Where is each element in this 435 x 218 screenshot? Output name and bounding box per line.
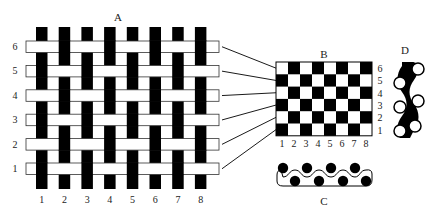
grid-cell-filled <box>324 74 336 86</box>
grid-col-label: 7 <box>352 138 357 149</box>
panel-c-weft-cross-section <box>277 163 372 186</box>
grid-cell-filled <box>348 99 360 111</box>
grid-cell-filled <box>312 87 324 99</box>
warp-float <box>195 40 207 53</box>
weft-section <box>409 120 421 132</box>
grid-cell-filled <box>348 74 360 86</box>
warp-float <box>81 65 93 78</box>
warp-label: 7 <box>175 194 180 205</box>
warp-label: 4 <box>107 194 112 205</box>
weft-yarn <box>26 114 219 126</box>
weft-section <box>412 63 424 75</box>
connector-line <box>222 71 276 80</box>
warp-section-bottom <box>361 176 371 186</box>
grid-cell-filled <box>276 99 288 111</box>
panel-a-label: A <box>114 11 122 23</box>
grid-row-label: 2 <box>378 112 383 123</box>
weft-label: 6 <box>13 41 18 52</box>
warp-section-top <box>302 163 312 173</box>
grid-cell-filled <box>288 111 300 123</box>
grid-row-label: 5 <box>378 75 383 86</box>
grid-col-label: 8 <box>364 138 369 149</box>
warp-label: 3 <box>85 194 90 205</box>
grid-cell-filled <box>312 111 324 123</box>
warp-float <box>104 138 116 151</box>
warp-label: 2 <box>62 194 67 205</box>
warp-float <box>195 138 207 151</box>
warp-float <box>81 162 93 175</box>
weft-yarn <box>26 163 219 175</box>
connector-line <box>222 105 276 120</box>
warp-float <box>172 162 184 175</box>
warp-float <box>150 40 162 53</box>
weft-yarn <box>26 90 219 102</box>
weft-section <box>412 95 424 107</box>
grid-row-label: 6 <box>378 63 383 74</box>
warp-float <box>36 114 48 127</box>
warp-float <box>172 114 184 127</box>
warp-float <box>81 114 93 127</box>
grid-row-label: 4 <box>378 88 383 99</box>
weft-label: 1 <box>13 163 18 174</box>
grid-cell-filled <box>300 74 312 86</box>
warp-label: 1 <box>39 194 44 205</box>
grid-cell-filled <box>276 124 288 136</box>
grid-cell-filled <box>360 87 372 99</box>
warp-section-top <box>350 163 360 173</box>
warp-float <box>127 162 139 175</box>
grid-col-label: 2 <box>292 138 297 149</box>
grid-cell-filled <box>288 87 300 99</box>
weft-section <box>394 125 406 137</box>
weft-label: 5 <box>13 65 18 76</box>
warp-section-top <box>278 163 288 173</box>
weft-yarn <box>26 41 219 53</box>
panel-a-plain-weave: 65432112345678 <box>13 27 220 205</box>
warp-section-top <box>326 163 336 173</box>
weft-label: 4 <box>13 90 18 101</box>
warp-float <box>195 89 207 102</box>
panel-b-checkerboard: 65432112345678 <box>276 62 383 149</box>
grid-col-label: 1 <box>280 138 285 149</box>
warp-float <box>150 138 162 151</box>
weft-yarn <box>26 139 219 151</box>
connector-lines <box>222 47 276 169</box>
grid-cell-filled <box>336 87 348 99</box>
warp-float <box>104 40 116 53</box>
weft-section <box>394 101 406 113</box>
connector-line <box>222 93 276 96</box>
grid-cell-filled <box>360 111 372 123</box>
warp-label: 6 <box>153 194 158 205</box>
grid-cell-filled <box>324 99 336 111</box>
grid-cell-filled <box>312 62 324 74</box>
grid-cell-filled <box>300 99 312 111</box>
warp-section-bottom <box>290 176 300 186</box>
grid-row-label: 1 <box>378 125 383 136</box>
warp-float <box>36 65 48 78</box>
panel-c-label: C <box>320 195 327 207</box>
warp-label: 8 <box>198 194 203 205</box>
grid-col-label: 3 <box>304 138 309 149</box>
grid-col-label: 5 <box>328 138 333 149</box>
grid-cell-filled <box>288 62 300 74</box>
grid-col-label: 4 <box>316 138 321 149</box>
connector-line <box>222 47 276 68</box>
grid-cell-filled <box>360 62 372 74</box>
weft-section <box>394 77 406 89</box>
panel-d-warp-cross-section <box>394 62 424 138</box>
weft-yarn <box>26 65 219 77</box>
grid-cell-filled <box>348 124 360 136</box>
weft-label: 2 <box>13 139 18 150</box>
warp-float <box>104 89 116 102</box>
warp-float <box>36 162 48 175</box>
grid-cell-filled <box>324 124 336 136</box>
warp-float <box>59 138 70 151</box>
warp-float <box>150 89 162 102</box>
panel-d-label: D <box>401 44 409 56</box>
grid-col-label: 6 <box>340 138 345 149</box>
warp-label: 5 <box>130 194 135 205</box>
warp-float <box>127 114 139 127</box>
weft-label: 3 <box>13 114 18 125</box>
connector-line <box>222 117 276 144</box>
weave-diagram: 65432112345678 65432112345678 A B C D <box>0 0 435 218</box>
grid-cell-filled <box>276 74 288 86</box>
